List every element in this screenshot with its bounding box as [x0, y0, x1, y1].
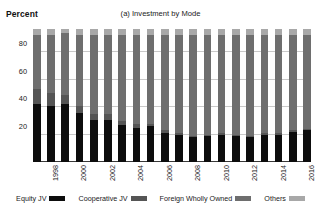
- bar-2015: [289, 29, 297, 162]
- legend-item-foreign-wholly-owned[interactable]: Foreign Wholly Owned: [160, 194, 252, 203]
- bar-segment: [133, 35, 141, 124]
- legend-swatch-icon: [131, 196, 147, 201]
- bar-segment: [76, 106, 84, 113]
- x-axis-tick: [261, 164, 269, 190]
- legend-item-cooperative-jv[interactable]: Cooperative JV: [78, 194, 146, 203]
- chart-title: (a) Investment by Mode: [0, 9, 321, 18]
- x-axis-tick-label: 2010: [222, 165, 231, 181]
- bar-2006: [161, 29, 169, 162]
- bar-segment: [90, 35, 98, 115]
- bar-segment: [61, 33, 69, 95]
- bar-segment: [133, 128, 141, 162]
- x-axis-tick: [147, 164, 155, 190]
- bar-segment: [232, 35, 240, 135]
- bar-2003: [118, 29, 126, 162]
- bar-segment: [246, 35, 254, 136]
- x-axis-labels: 1998200020022004200620082010201220142016: [33, 164, 311, 190]
- x-axis-tick: [289, 164, 297, 190]
- bar-2016: [303, 29, 311, 162]
- x-axis-tick: 2002: [104, 164, 112, 190]
- bar-segment: [303, 130, 311, 162]
- x-axis-tick: 2010: [218, 164, 226, 190]
- bar-segment: [161, 35, 169, 131]
- bar-segment: [204, 35, 212, 135]
- x-axis-tick-label: 2004: [136, 165, 145, 181]
- bar-segment: [90, 120, 98, 163]
- bar-segment: [118, 125, 126, 162]
- bar-segment: [61, 104, 69, 162]
- bar-1999: [61, 29, 69, 162]
- legend-swatch-icon: [235, 196, 251, 201]
- y-axis-tick-label: 80: [0, 39, 27, 48]
- x-axis-tick: [204, 164, 212, 190]
- bar-segment: [147, 35, 155, 124]
- bar-1998: [47, 29, 55, 162]
- bar-2009: [204, 29, 212, 162]
- bar-segment: [232, 136, 240, 162]
- bar-segment: [175, 135, 183, 162]
- bar-segment: [33, 104, 41, 162]
- bar-segment: [61, 95, 69, 105]
- bar-segment: [161, 133, 169, 162]
- x-axis-tick-label: 2016: [307, 165, 316, 181]
- y-axis-tick-label: 60: [0, 67, 27, 76]
- bar-segment: [261, 35, 269, 134]
- plot-area: 20406080: [33, 29, 311, 162]
- x-axis-tick-label: 2008: [193, 165, 202, 181]
- bar-segment: [76, 35, 84, 106]
- bar-segment: [204, 136, 212, 162]
- bar-segment: [275, 135, 283, 162]
- bar-segment: [261, 135, 269, 162]
- bar-group: [33, 29, 311, 162]
- legend-item-others[interactable]: Others: [264, 194, 305, 203]
- bar-2004: [133, 29, 141, 162]
- bar-1997: [33, 29, 41, 162]
- chart-legend: Equity JVCooperative JVForeign Wholly Ow…: [0, 191, 321, 205]
- bar-segment: [218, 35, 226, 134]
- x-axis-tick: 2014: [275, 164, 283, 190]
- bar-segment: [118, 35, 126, 121]
- bar-segment: [33, 35, 41, 90]
- bar-segment: [289, 35, 297, 131]
- bar-2013: [261, 29, 269, 162]
- bar-2005: [147, 29, 155, 162]
- y-axis-tick-label: 20: [0, 122, 27, 131]
- bar-segment: [104, 35, 112, 115]
- x-axis-tick: [33, 164, 41, 190]
- x-axis-tick: 2016: [303, 164, 311, 190]
- bar-2000: [76, 29, 84, 162]
- x-axis-tick: [232, 164, 240, 190]
- x-axis-tick-label: 1998: [51, 165, 60, 181]
- x-axis-tick: 2012: [246, 164, 254, 190]
- bar-2001: [90, 29, 98, 162]
- x-axis-tick-label: 2014: [279, 165, 288, 181]
- x-axis-tick: 2000: [76, 164, 84, 190]
- bar-segment: [289, 132, 297, 162]
- bar-segment: [246, 137, 254, 162]
- x-axis-tick: [61, 164, 69, 190]
- chart-figure: Percent (a) Investment by Mode 20406080 …: [0, 0, 321, 211]
- legend-item-equity-jv[interactable]: Equity JV: [16, 194, 65, 203]
- x-axis-tick: [90, 164, 98, 190]
- x-axis-tick: 1998: [47, 164, 55, 190]
- bar-segment: [47, 93, 55, 105]
- bar-2008: [189, 29, 197, 162]
- bar-segment: [33, 89, 41, 104]
- legend-item-label: Others: [264, 194, 286, 203]
- bar-segment: [275, 35, 283, 134]
- x-axis-tick: 2008: [189, 164, 197, 190]
- x-axis-tick-label: 2012: [250, 165, 259, 181]
- bar-2011: [232, 29, 240, 162]
- legend-item-label: Equity JV: [16, 194, 46, 203]
- x-axis-tick: 2004: [133, 164, 141, 190]
- x-axis-tick: 2006: [161, 164, 169, 190]
- bar-segment: [189, 35, 197, 136]
- legend-swatch-icon: [289, 196, 305, 201]
- bar-2012: [246, 29, 254, 162]
- x-axis-tick-label: 2006: [165, 165, 174, 181]
- bar-segment: [47, 35, 55, 94]
- legend-swatch-icon: [49, 196, 65, 201]
- legend-item-label: Cooperative JV: [78, 194, 127, 203]
- bar-2007: [175, 29, 183, 162]
- x-axis-tick-label: 2000: [79, 165, 88, 181]
